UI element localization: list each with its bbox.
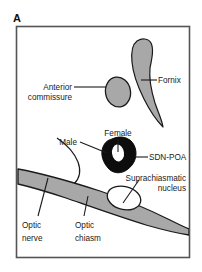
label-sdn-poa: SDN-POA <box>149 153 187 162</box>
label-suprachiasmatic-line1: Suprachiasmatic <box>125 174 186 183</box>
anatomical-diagram: Fornix Anterior commissure Female Male S… <box>0 0 202 272</box>
label-male: Male <box>59 138 77 147</box>
label-optic-chiasm-line1: Optic <box>75 221 94 230</box>
label-suprachiasmatic-line2: nucleus <box>158 184 186 193</box>
label-anterior-commissure-line1: Anterior <box>43 83 72 92</box>
figure-panel-a: A <box>0 0 202 272</box>
label-anterior-commissure-line2: commissure <box>28 93 73 102</box>
label-fornix: Fornix <box>158 76 181 85</box>
label-optic-nerve-line1: Optic <box>22 221 41 230</box>
label-optic-nerve-line2: nerve <box>22 234 43 243</box>
label-optic-chiasm-line2: chiasm <box>75 234 101 243</box>
label-female: Female <box>104 129 132 138</box>
